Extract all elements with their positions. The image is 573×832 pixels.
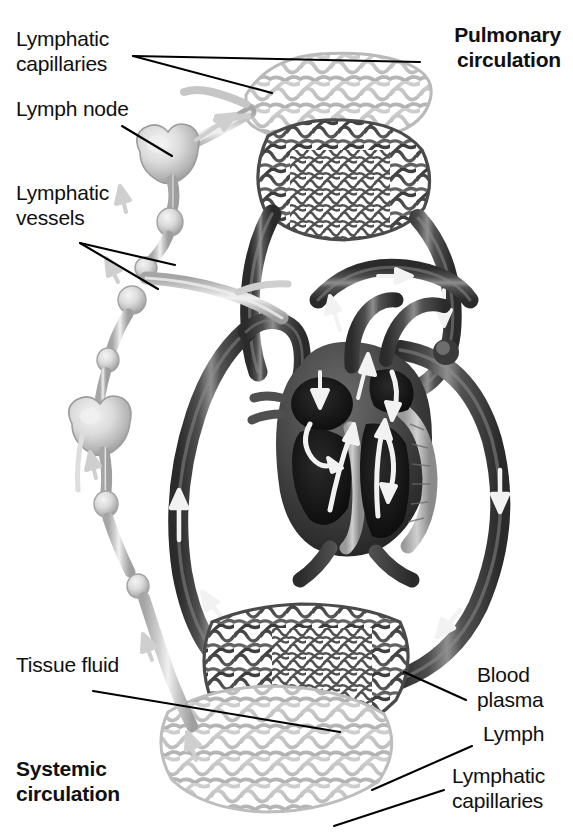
left-ventricle [360, 423, 410, 538]
label-tissue-fluid: Tissue fluid [16, 652, 119, 677]
label-pulmonary-circulation: Pulmonary circulation [454, 22, 561, 72]
label-lymph-node: Lymph node [16, 96, 129, 121]
heart [252, 296, 459, 580]
lymphatic-valve-bead [118, 286, 146, 314]
label-lymphatic-capillaries-bottom: Lymphatic capillaries [452, 763, 545, 813]
circulatory-lymphatic-diagram: Lymphatic capillaries Lymph node Lymphat… [0, 0, 573, 832]
label-lymphatic-vessels: Lymphatic vessels [16, 180, 109, 230]
label-blood-plasma: Blood plasma [477, 662, 544, 712]
label-lymph: Lymph [483, 721, 544, 746]
vena-cava-lower-flow-arrow [202, 592, 222, 618]
label-systemic-circulation: Systemic circulation [16, 756, 120, 806]
leader-blood-plasma [404, 672, 466, 700]
label-lymphatic-capillaries-top: Lymphatic capillaries [16, 26, 109, 76]
pulmonary-artery [250, 214, 272, 372]
